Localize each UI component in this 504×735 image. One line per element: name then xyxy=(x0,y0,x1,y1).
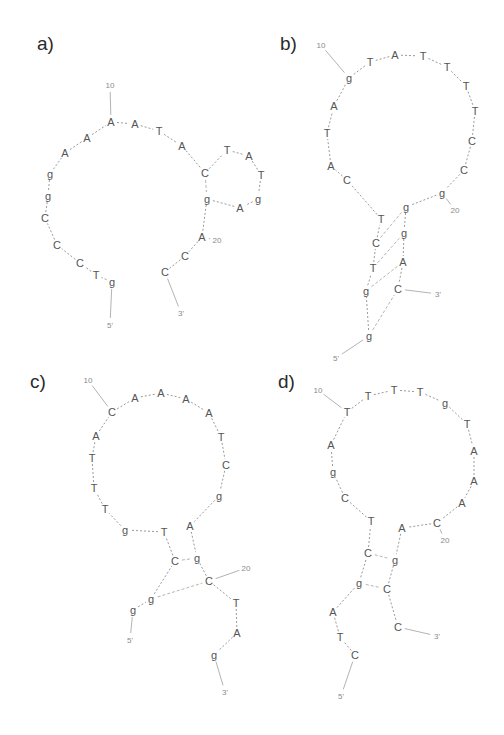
backbone-link xyxy=(245,202,252,206)
backbone-link xyxy=(200,563,206,575)
nucleotide: T xyxy=(420,50,427,62)
backbone-link xyxy=(191,532,195,552)
nucleotide: C xyxy=(161,266,169,278)
position-number: 3' xyxy=(435,290,441,299)
nucleotide: g xyxy=(211,649,217,661)
position-number: 20 xyxy=(242,564,251,573)
backbone-link xyxy=(389,595,397,621)
backbone-link xyxy=(70,141,82,149)
backbone-link xyxy=(336,170,343,176)
nucleotide: C xyxy=(468,135,476,147)
backbone-link xyxy=(92,125,106,134)
nucleotide: A xyxy=(330,100,338,112)
nucleotide: g xyxy=(130,604,136,616)
nucleotide: C xyxy=(364,547,372,559)
nucleotide: C xyxy=(222,459,230,471)
position-number: 20 xyxy=(441,536,450,545)
position-tick xyxy=(440,529,442,533)
nucleotide: C xyxy=(394,621,402,633)
backbone-link xyxy=(473,117,475,135)
backbone-link xyxy=(331,451,332,466)
position-number: 10 xyxy=(314,386,323,395)
position-tick xyxy=(405,290,431,293)
nucleotide: T xyxy=(391,384,398,396)
nucleotide: g xyxy=(109,276,115,288)
nucleotide: T xyxy=(417,386,424,398)
base-pair-bond xyxy=(375,555,388,558)
nucleotide: A xyxy=(470,445,478,457)
backbone-link xyxy=(167,394,180,397)
nucleotide: g xyxy=(148,593,154,605)
nucleotide: C xyxy=(76,257,84,269)
nucleotide: A xyxy=(131,118,139,130)
panel-label-a: a) xyxy=(37,33,54,54)
backbone-link xyxy=(186,151,201,169)
position-number: 5' xyxy=(338,692,344,701)
panel-b: b) ggTCTCATAgTATTTTCCgggAC10205'3' xyxy=(280,33,479,363)
nucleotide: g xyxy=(47,168,53,180)
nucleotide: A xyxy=(131,392,139,404)
backbone-link xyxy=(218,637,232,651)
position-tick xyxy=(446,199,450,205)
position-tick xyxy=(92,386,108,407)
backbone-link xyxy=(369,527,371,547)
nucleotide: A xyxy=(198,231,206,243)
nucleotide: A xyxy=(157,387,165,399)
position-number: 20 xyxy=(213,236,222,245)
base-pair-bond xyxy=(158,583,203,597)
nucleotide: T xyxy=(93,269,100,281)
backbone-link xyxy=(141,394,155,397)
nucleotide: g xyxy=(45,190,51,202)
backbone-link xyxy=(412,195,437,205)
hairpin-figure: a) gTCCCggAAAATACTATgAgACC10205'3' b) gg… xyxy=(0,0,504,735)
nucleotide: T xyxy=(156,125,163,137)
backbone-link xyxy=(361,559,367,578)
nucleotide: T xyxy=(444,61,451,73)
nucleotide: g xyxy=(363,285,369,297)
nucleotide: T xyxy=(218,431,225,443)
backbone-link xyxy=(259,181,261,193)
backbone-link xyxy=(469,430,473,445)
position-tick xyxy=(343,662,352,690)
nucleotide: T xyxy=(102,503,109,515)
nucleotide: C xyxy=(171,555,179,567)
position-tick xyxy=(216,570,240,578)
nucleotide: A xyxy=(458,497,466,509)
position-number: 5' xyxy=(127,636,133,645)
backbone-link xyxy=(337,587,355,607)
nucleotide: A xyxy=(178,140,186,152)
nucleotide: T xyxy=(365,390,372,402)
backbone-link xyxy=(465,486,471,497)
backbone-link xyxy=(368,274,372,286)
backbone-link xyxy=(101,277,106,279)
panel-a-structure: gTCCCggAAAATACTATgAgACC10205'3' xyxy=(41,81,265,330)
panel-label-b: b) xyxy=(280,33,297,54)
backbone-link xyxy=(377,225,380,237)
nucleotide: g xyxy=(122,524,128,536)
nucleotide: A xyxy=(107,116,115,128)
backbone-link xyxy=(468,92,473,106)
panel-d-structure: CTAgCTCgATTTTgTAAACAgCC10205'3' xyxy=(314,384,479,701)
backbone-link xyxy=(117,401,130,409)
nucleotide: C xyxy=(433,517,441,529)
nucleotide: g xyxy=(439,187,445,199)
position-tick xyxy=(110,92,111,115)
position-tick xyxy=(405,629,430,635)
backbone-link xyxy=(53,158,61,169)
position-number: 3' xyxy=(434,632,440,641)
nucleotide: T xyxy=(324,127,331,139)
position-tick xyxy=(326,50,345,72)
nucleotide: T xyxy=(91,482,98,494)
backbone-link xyxy=(46,202,47,212)
backbone-link xyxy=(203,205,206,231)
nucleotide: A xyxy=(233,627,241,639)
panel-label-c: c) xyxy=(30,371,46,392)
backbone-link xyxy=(138,602,146,607)
nucleotide: g xyxy=(330,466,336,478)
backbone-link xyxy=(446,174,460,188)
backbone-link xyxy=(351,185,377,215)
backbone-link xyxy=(189,241,198,251)
nucleotide: g xyxy=(366,330,372,342)
position-tick xyxy=(216,662,223,686)
backbone-link xyxy=(399,268,402,283)
